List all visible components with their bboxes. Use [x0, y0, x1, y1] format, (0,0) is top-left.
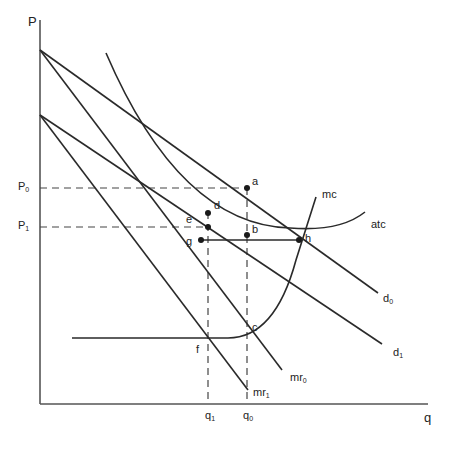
- point-e-label: e: [186, 214, 192, 225]
- x-axis-label: q: [424, 411, 431, 424]
- point-b-label: b: [252, 224, 258, 235]
- d1-label: d1: [393, 347, 403, 359]
- d0-label: d0: [383, 293, 393, 305]
- point-b: [244, 232, 250, 238]
- mr0-label: mr0: [290, 372, 307, 384]
- mr1-curve: [40, 115, 248, 390]
- point-h: [296, 237, 302, 243]
- price-p0-label: P0: [18, 181, 29, 193]
- quantity-q1-label: q1: [205, 410, 215, 422]
- point-c-label: c: [252, 322, 258, 333]
- d1-curve: [40, 115, 382, 344]
- point-f-label: f: [196, 344, 199, 355]
- mc-label: mc: [322, 189, 337, 200]
- point-h-label: h: [305, 233, 311, 244]
- y-axis-label: P: [28, 15, 37, 28]
- mr1-label: mr1: [253, 387, 270, 399]
- point-g-label: g: [186, 236, 192, 247]
- point-a-label: a: [252, 176, 258, 187]
- price-p1-label: P1: [18, 220, 29, 232]
- point-a: [244, 185, 250, 191]
- point-g: [198, 237, 204, 243]
- atc-label: atc: [371, 219, 386, 230]
- d0-curve: [40, 50, 378, 293]
- atc-curve: [106, 53, 365, 229]
- mr0-curve: [40, 50, 282, 370]
- point-e: [205, 224, 211, 230]
- quantity-q0-label: q0: [243, 410, 253, 422]
- point-d-label: d: [214, 200, 220, 211]
- point-d: [205, 210, 211, 216]
